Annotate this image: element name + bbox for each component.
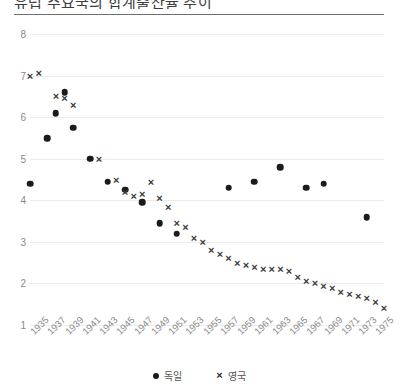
legend-label-uk: 영국 bbox=[228, 368, 246, 383]
data-point-영국 bbox=[276, 264, 285, 273]
y-axis-tick-label: 1 bbox=[4, 320, 26, 331]
data-point-독일 bbox=[27, 180, 34, 187]
data-point-영국 bbox=[181, 223, 190, 232]
data-point-독일 bbox=[53, 110, 60, 117]
data-point-독일 bbox=[104, 178, 111, 185]
y-axis-tick-label: 2 bbox=[4, 278, 26, 289]
legend-item-uk[interactable]: × 영국 bbox=[216, 368, 245, 383]
data-point-영국 bbox=[146, 177, 155, 186]
y-axis-tick-label: 8 bbox=[4, 29, 26, 40]
data-point-영국 bbox=[380, 304, 389, 313]
data-point-영국 bbox=[215, 250, 224, 259]
gridline bbox=[30, 159, 384, 160]
data-point-영국 bbox=[138, 190, 147, 199]
y-axis-tick-label: 7 bbox=[4, 70, 26, 81]
data-point-영국 bbox=[259, 264, 268, 273]
data-point-독일 bbox=[70, 124, 77, 131]
data-point-영국 bbox=[319, 281, 328, 290]
title-divider bbox=[14, 14, 384, 15]
data-point-영국 bbox=[241, 260, 250, 269]
data-point-독일 bbox=[156, 220, 163, 227]
data-point-영국 bbox=[112, 175, 121, 184]
y-axis-tick-label: 4 bbox=[4, 195, 26, 206]
data-point-영국 bbox=[328, 283, 337, 292]
data-point-독일 bbox=[277, 164, 284, 171]
data-point-영국 bbox=[69, 100, 78, 109]
y-axis-tick-label: 6 bbox=[4, 112, 26, 123]
gridline bbox=[30, 76, 384, 77]
data-point-독일 bbox=[173, 230, 180, 237]
data-point-영국 bbox=[371, 298, 380, 307]
gridline bbox=[30, 200, 384, 201]
data-point-영국 bbox=[95, 154, 104, 163]
data-point-독일 bbox=[320, 180, 327, 187]
data-point-영국 bbox=[302, 277, 311, 286]
data-point-독일 bbox=[225, 185, 232, 192]
data-point-독일 bbox=[363, 214, 370, 221]
plot-area: 8765432119351937193919411943194519471949… bbox=[30, 34, 384, 325]
x-axis-tick-label: 1975 bbox=[373, 314, 396, 337]
data-point-영국 bbox=[224, 254, 233, 263]
data-point-영국 bbox=[285, 266, 294, 275]
data-point-영국 bbox=[34, 69, 43, 78]
y-axis-tick-label: 5 bbox=[4, 153, 26, 164]
legend-dot-icon bbox=[153, 373, 159, 379]
legend-label-germany: 독일 bbox=[164, 368, 182, 383]
page-title: 유럽 주요국의 합계출산율 추이 bbox=[14, 0, 212, 9]
data-point-영국 bbox=[155, 194, 164, 203]
data-point-독일 bbox=[139, 199, 146, 206]
data-point-영국 bbox=[345, 289, 354, 298]
chart-root: 유럽 주요국의 합계출산율 추이 87654321193519371939194… bbox=[0, 0, 399, 392]
data-point-영국 bbox=[172, 219, 181, 228]
data-point-영국 bbox=[120, 187, 129, 196]
legend-cross-icon: × bbox=[216, 370, 222, 381]
chart-legend: 독일 × 영국 bbox=[0, 368, 399, 383]
legend-item-germany[interactable]: 독일 bbox=[153, 368, 182, 383]
data-point-영국 bbox=[164, 202, 173, 211]
data-point-독일 bbox=[303, 185, 310, 192]
data-point-독일 bbox=[251, 178, 258, 185]
data-point-영국 bbox=[51, 92, 60, 101]
data-point-독일 bbox=[87, 155, 94, 162]
data-point-독일 bbox=[44, 135, 51, 142]
data-point-영국 bbox=[198, 237, 207, 246]
gridline bbox=[30, 117, 384, 118]
gridline bbox=[30, 34, 384, 35]
data-point-영국 bbox=[362, 293, 371, 302]
y-axis-tick-label: 3 bbox=[4, 236, 26, 247]
